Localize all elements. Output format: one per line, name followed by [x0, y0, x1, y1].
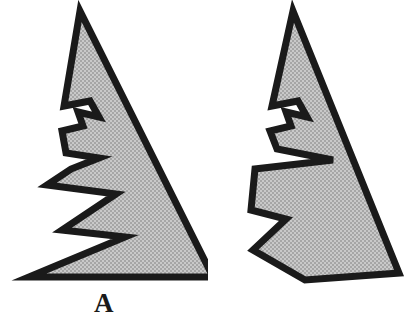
- shape-b-graphic: [208, 0, 416, 285]
- figure-panel-a: A: [0, 0, 208, 330]
- figure-canvas: A B: [0, 0, 416, 330]
- shape-a-graphic: [0, 0, 208, 285]
- shape-b-outline: [251, 11, 399, 280]
- figure-panel-b: B: [208, 0, 416, 330]
- shape-a-outline: [29, 11, 208, 277]
